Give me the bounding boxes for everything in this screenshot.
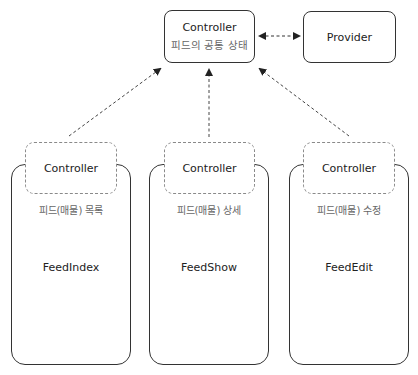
feed-edit-controller: Controller bbox=[303, 142, 395, 194]
feed-show-label: 피드(매물) 상세 bbox=[149, 202, 269, 217]
controller-label: Controller bbox=[44, 161, 98, 176]
feed-show-controller: Controller bbox=[164, 142, 255, 194]
shared-controller-title: Controller bbox=[182, 20, 236, 35]
feed-index-label: 피드(매물) 목록 bbox=[11, 202, 131, 217]
provider-title: Provider bbox=[327, 30, 372, 45]
shared-controller-subtitle: 피드의 공통 상태 bbox=[171, 38, 248, 53]
feed-edit-label: 피드(매물) 수정 bbox=[289, 202, 409, 217]
arrow-index-to-controller bbox=[69, 69, 160, 136]
feed-index-controller: Controller bbox=[25, 142, 117, 194]
shared-controller-box: Controller 피드의 공통 상태 bbox=[164, 10, 255, 63]
provider-box: Provider bbox=[303, 11, 396, 63]
arrow-edit-to-controller bbox=[260, 69, 349, 136]
feed-show-name: FeedShow bbox=[149, 261, 269, 274]
controller-label: Controller bbox=[322, 161, 376, 176]
feed-edit-name: FeedEdit bbox=[289, 261, 409, 274]
controller-label: Controller bbox=[182, 161, 236, 176]
feed-index-name: FeedIndex bbox=[11, 261, 131, 274]
